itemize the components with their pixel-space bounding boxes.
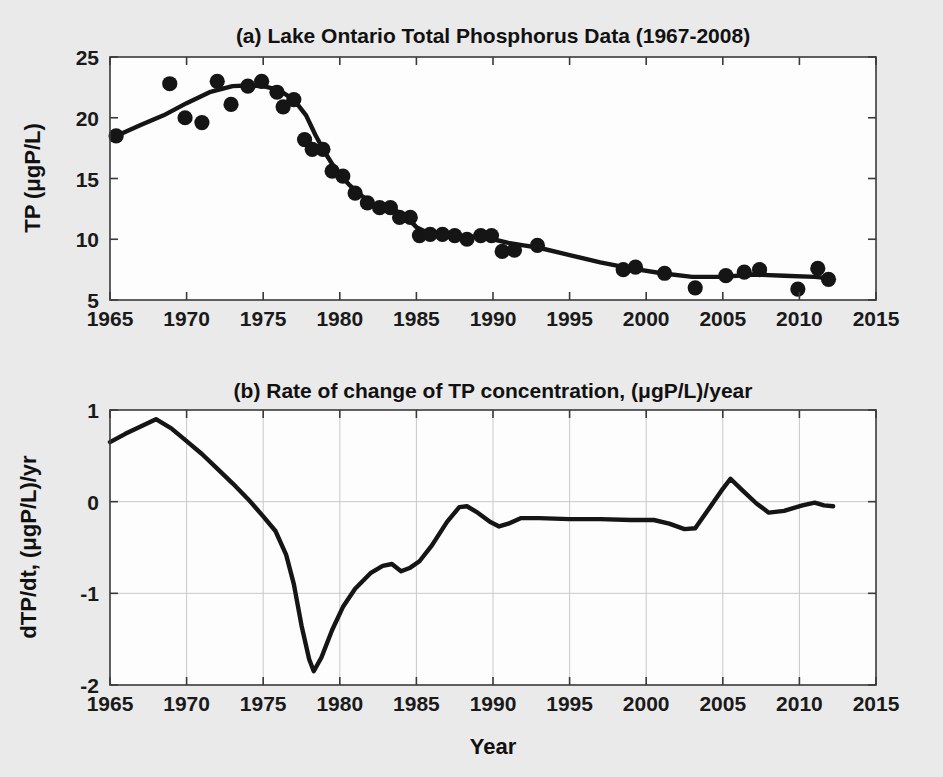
panel-b-title: (b) Rate of change of TP concentration, …: [234, 379, 753, 402]
x-tick-label: 1995: [546, 692, 593, 715]
panel-b-ytick-labels: -2-101: [80, 399, 99, 697]
x-tick-label: 1970: [163, 692, 210, 715]
y-tick-label: 1: [87, 399, 99, 422]
y-tick-label: -2: [80, 674, 99, 697]
panel-a-svg: (a) Lake Ontario Total Phosphorus Data (…: [0, 0, 943, 350]
panel-b-y-axis-label: dTP/dt, (μgP/L)/yr: [16, 455, 41, 639]
panel-b-svg: (b) Rate of change of TP concentration, …: [0, 350, 943, 777]
x-tick-label: 2005: [699, 307, 746, 330]
x-tick-label: 2000: [623, 307, 670, 330]
x-tick-label: 2005: [699, 692, 746, 715]
data-point-marker: [790, 281, 805, 296]
x-tick-label: 1980: [316, 307, 363, 330]
x-tick-label: 2010: [776, 307, 823, 330]
data-point-marker: [177, 110, 192, 125]
data-point-marker: [459, 232, 474, 247]
panel-a-total-phosphorus: (a) Lake Ontario Total Phosphorus Data (…: [0, 0, 943, 350]
x-tick-label: 1985: [393, 692, 440, 715]
y-tick-label: 0: [87, 491, 99, 514]
y-tick-label: 15: [76, 168, 100, 191]
panel-a-xtick-labels: 1965197019751980198519901995200020052010…: [87, 307, 900, 330]
x-tick-label: 1995: [546, 307, 593, 330]
x-tick-label: 1975: [240, 307, 287, 330]
data-point-marker: [194, 115, 209, 130]
x-tick-label: 2010: [776, 692, 823, 715]
data-point-marker: [810, 261, 825, 276]
y-tick-label: 10: [76, 228, 99, 251]
x-tick-label: 2000: [623, 692, 670, 715]
panel-a-y-axis-label: TP (μgP/L): [20, 123, 45, 233]
x-tick-label: 1985: [393, 307, 440, 330]
panel-a-title: (a) Lake Ontario Total Phosphorus Data (…: [236, 24, 750, 47]
y-tick-label: 5: [87, 289, 99, 312]
x-tick-label: 1990: [470, 692, 517, 715]
x-tick-label: 1990: [470, 307, 517, 330]
x-tick-label: 2015: [853, 692, 900, 715]
data-point-marker: [223, 97, 238, 112]
x-tick-label: 2015: [853, 307, 900, 330]
panel-b-rate-of-change: (b) Rate of change of TP concentration, …: [0, 350, 943, 777]
figure-container: (a) Lake Ontario Total Phosphorus Data (…: [0, 0, 943, 777]
data-point-marker: [688, 280, 703, 295]
data-point-marker: [162, 76, 177, 91]
y-tick-label: 20: [76, 107, 99, 130]
panel-b-x-axis-label: Year: [470, 734, 517, 759]
panel-a-ytick-labels: 510152025: [76, 46, 100, 312]
x-tick-label: 1975: [240, 692, 287, 715]
panel-b-xtick-labels: 1965197019751980198519901995200020052010…: [87, 692, 900, 715]
x-tick-label: 1980: [316, 692, 363, 715]
y-tick-label: -1: [80, 582, 99, 605]
x-tick-label: 1970: [163, 307, 210, 330]
y-tick-label: 25: [76, 46, 100, 69]
